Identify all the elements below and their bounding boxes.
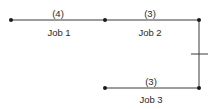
node-job1-end [103,18,107,22]
job-1-duration: (4) [52,9,64,19]
node-start [9,18,13,22]
job-3-label: Job 3 [139,95,162,105]
job-2-label: Job 2 [138,28,161,38]
node-job3-start [103,86,107,90]
network-diagram [0,0,212,109]
node-job3-end [197,86,201,90]
job-1-label: Job 1 [47,28,70,38]
node-job2-end [197,18,201,22]
job-3-duration: (3) [145,77,157,87]
job-2-duration: (3) [144,9,156,19]
